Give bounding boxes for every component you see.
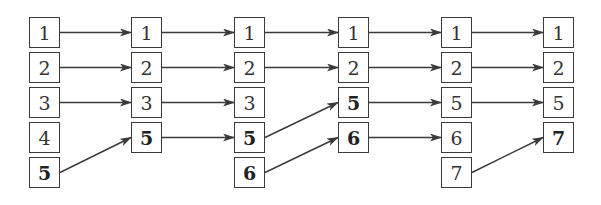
array-cell: 4 xyxy=(29,122,60,153)
array-cell: 2 xyxy=(338,52,369,83)
array-cell: 3 xyxy=(234,87,265,118)
array-cell: 3 xyxy=(29,87,60,118)
arrow-connector xyxy=(60,138,131,173)
array-cell: 5 xyxy=(131,122,162,153)
array-cell: 1 xyxy=(29,17,60,48)
array-cell: 7 xyxy=(543,122,574,153)
array-cell: 2 xyxy=(543,52,574,83)
arrow-connector xyxy=(265,103,338,138)
arrow-connector xyxy=(265,138,338,173)
array-cell: 5 xyxy=(29,157,60,188)
array-cell: 2 xyxy=(441,52,472,83)
array-cell: 2 xyxy=(234,52,265,83)
array-cell: 2 xyxy=(29,52,60,83)
array-cell: 7 xyxy=(441,157,472,188)
array-cell: 6 xyxy=(338,122,369,153)
array-cell: 2 xyxy=(131,52,162,83)
array-cell: 1 xyxy=(441,17,472,48)
array-cell: 1 xyxy=(543,17,574,48)
array-cell: 1 xyxy=(131,17,162,48)
array-cell: 5 xyxy=(441,87,472,118)
array-cell: 5 xyxy=(543,87,574,118)
array-diagram: 123451235123561256125671257 xyxy=(0,0,601,205)
array-cell: 5 xyxy=(234,122,265,153)
array-cell: 3 xyxy=(131,87,162,118)
arrow-connector xyxy=(472,138,543,173)
array-cell: 6 xyxy=(234,157,265,188)
array-cell: 6 xyxy=(441,122,472,153)
array-cell: 1 xyxy=(338,17,369,48)
array-cell: 5 xyxy=(338,87,369,118)
arrows-layer xyxy=(0,0,601,205)
array-cell: 1 xyxy=(234,17,265,48)
